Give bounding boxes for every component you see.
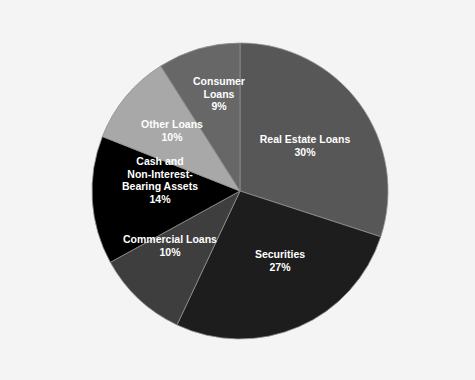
chart-page: Real Estate Loans30%Securities27%Commerc… xyxy=(0,0,475,380)
pie-chart-svg: Real Estate Loans30%Securities27%Commerc… xyxy=(0,0,475,380)
pie-chart: Real Estate Loans30%Securities27%Commerc… xyxy=(0,0,475,380)
